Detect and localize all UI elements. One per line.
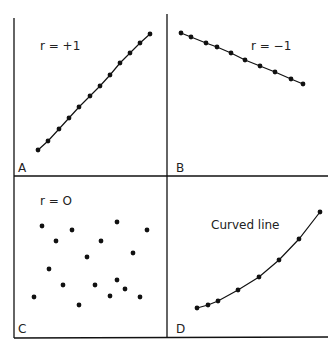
panel-label-b: B: [176, 161, 184, 175]
panel-label-c: C: [18, 322, 26, 336]
data-point: [318, 210, 323, 215]
data-point: [46, 139, 51, 144]
data-point: [40, 224, 45, 229]
data-point: [215, 45, 220, 50]
data-point: [236, 288, 241, 293]
data-point: [148, 32, 153, 37]
data-point: [243, 58, 248, 63]
correlation-chart: r = +1 r = −1 r = O Curved line A B C D: [0, 0, 328, 347]
annotation-b: r = −1: [251, 39, 291, 53]
data-point: [195, 306, 200, 311]
data-point: [216, 299, 221, 304]
data-point: [108, 294, 113, 299]
annotation-d: Curved line: [211, 218, 280, 232]
data-point: [99, 239, 104, 244]
data-point: [297, 237, 302, 242]
data-point: [115, 220, 120, 225]
data-point: [289, 77, 294, 82]
data-point: [108, 73, 113, 78]
panel-label-a: A: [18, 161, 27, 175]
panel-label-d: D: [176, 322, 185, 336]
data-point: [189, 35, 194, 40]
data-point: [118, 61, 123, 66]
data-point: [93, 283, 98, 288]
data-point: [32, 295, 37, 300]
data-point: [61, 283, 66, 288]
data-point: [229, 51, 234, 56]
data-point: [77, 105, 82, 110]
data-point: [54, 239, 59, 244]
bottom-border: [14, 337, 328, 338]
data-point: [88, 94, 93, 99]
data-point: [98, 84, 103, 89]
data-point: [131, 251, 136, 256]
data-point: [301, 82, 306, 87]
data-point: [257, 275, 262, 280]
data-point: [128, 51, 133, 56]
data-point: [273, 70, 278, 75]
data-point: [145, 228, 150, 233]
data-point: [70, 228, 75, 233]
data-point: [277, 258, 282, 263]
annotation-c: r = O: [40, 194, 72, 208]
data-point: [138, 41, 143, 46]
data-point: [138, 295, 143, 300]
data-point: [77, 303, 82, 308]
data-point: [206, 303, 211, 308]
data-point: [115, 278, 120, 283]
data-point: [57, 127, 62, 132]
data-point: [67, 116, 72, 121]
data-point: [47, 267, 52, 272]
data-point: [258, 64, 263, 69]
data-point: [123, 287, 128, 292]
data-point: [179, 31, 184, 36]
data-point: [36, 148, 41, 153]
data-point: [204, 41, 209, 46]
data-point: [85, 255, 90, 260]
annotation-a: r = +1: [40, 39, 80, 53]
